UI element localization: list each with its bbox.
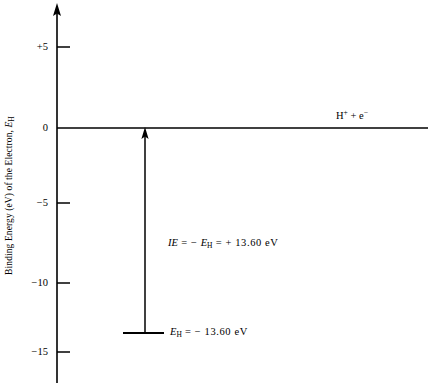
tick-label-plus5: +5 bbox=[8, 41, 48, 52]
ionized-level-label-sup-minus: − bbox=[364, 108, 368, 117]
y-axis-title: Binding Energy (eV) of the Electron, EH bbox=[0, 0, 18, 391]
ionization-energy-label-mid: = − bbox=[178, 237, 201, 248]
ionized-level-label: H+ + e− bbox=[336, 110, 368, 121]
tick-label-zero: 0 bbox=[8, 122, 48, 133]
ionization-energy-label-ie: IE bbox=[168, 237, 178, 248]
ionization-energy-label-rest: = + 13.60 eV bbox=[212, 237, 278, 248]
tick-label-minus10: −10 bbox=[6, 277, 48, 288]
y-axis-title-symbol-sub: H bbox=[7, 116, 16, 122]
ionization-energy-label: IE = − EH = + 13.60 eV bbox=[168, 237, 279, 248]
ionized-level-label-mid: + e bbox=[348, 110, 364, 121]
ionized-level-label-symbol: H bbox=[336, 110, 344, 121]
ionization-energy-label-sub: H bbox=[207, 241, 212, 250]
tick-label-minus15: −15 bbox=[6, 346, 48, 357]
ground-level-label-rest: = − 13.60 eV bbox=[182, 326, 248, 337]
energy-level-diagram: Binding Energy (eV) of the Electron, EH … bbox=[0, 0, 430, 391]
ground-level-label: EH = − 13.60 eV bbox=[170, 326, 248, 337]
ground-level-label-sub: H bbox=[176, 330, 181, 339]
ionized-level-label-sup-plus: + bbox=[344, 108, 348, 117]
tick-label-minus5: −5 bbox=[8, 197, 48, 208]
